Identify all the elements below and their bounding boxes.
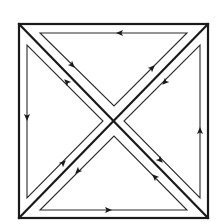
loop-left — [27, 45, 103, 198]
loop-right — [124, 45, 200, 198]
arrow-down-left-icon — [73, 167, 82, 176]
circulation-diagram — [0, 0, 223, 224]
arrow-up-right-icon — [59, 158, 68, 167]
arrow-down-left-icon — [160, 78, 169, 87]
